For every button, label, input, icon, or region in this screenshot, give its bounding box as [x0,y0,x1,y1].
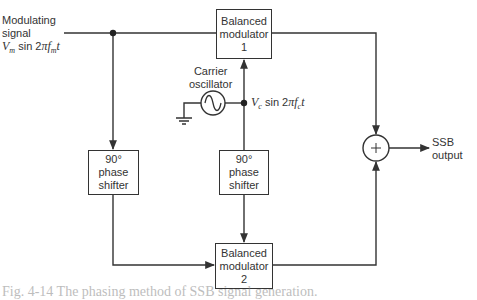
block-label: 1 [241,41,247,54]
label-line: Modulating [2,14,60,27]
balanced-modulator-2: Balanced modulator 2 [215,243,273,289]
label-line: oscillator [189,78,232,91]
phase-shifter-right: 90° phase shifter [219,150,269,195]
plus-icon [371,143,381,153]
junction-dot-modulating [110,30,116,36]
expr-mid: sin 2 [262,96,288,108]
wire-osc-to-ground [184,103,201,118]
sine-wave-icon [205,96,221,111]
block-label: shifter [229,179,259,192]
block-label: 90° [105,153,122,166]
expr-t: t [57,39,60,53]
ground-icon [176,118,192,124]
block-label: 90° [236,153,253,166]
block-label: Balanced [221,15,267,28]
carrier-oscillator-label: Carrier oscillator [189,65,232,91]
label-line: output [432,149,463,162]
phase-shifter-left: 90° phase shifter [88,150,139,195]
carrier-expression: Vc sin 2πfct [251,96,304,113]
figure-caption: Fig. 4-14 The phasing method of SSB sign… [2,284,318,300]
block-label: Balanced [221,247,267,260]
expr-mid: sin 2 [15,40,41,52]
expr-t: t [301,95,304,109]
ssb-output-label: SSB output [432,136,463,162]
block-label: modulator [220,28,269,41]
block-label: shifter [99,179,129,192]
modulating-signal-expression: Vm sin 2πfmt [2,40,60,57]
wire-shifter-to-mod2 [113,195,214,265]
wire-mod1-to-summer [272,33,376,134]
junction-dot-carrier [241,100,247,106]
block-label: modulator [220,260,269,273]
modulating-signal-label: Modulating signal Vm sin 2πfmt [2,14,60,57]
wire-mod2-to-summer [273,162,376,265]
block-label: phase [99,166,129,179]
block-label: phase [229,166,259,179]
label-line: signal [2,27,60,40]
label-line: Carrier [189,65,232,78]
balanced-modulator-1: Balanced modulator 1 [216,9,272,59]
label-line: SSB [432,136,463,149]
